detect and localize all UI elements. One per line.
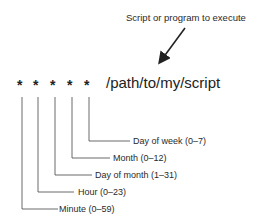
day-of-week-field: * <box>84 78 89 92</box>
script-path: /path/to/my/script <box>106 75 220 91</box>
annotation-label: Script or program to execute <box>126 13 246 23</box>
hour-connector <box>38 97 74 192</box>
day-of-month-field: * <box>50 78 55 92</box>
day-of-week-connector <box>89 97 130 141</box>
day-of-week-label: Day of week (0–7) <box>133 136 206 146</box>
minute-field: * <box>17 78 22 92</box>
month-connector <box>72 97 110 158</box>
month-field: * <box>67 78 72 92</box>
minute-label: Minute (0–59) <box>59 204 115 214</box>
day-of-month-label: Day of month (1–31) <box>95 170 177 180</box>
month-label: Month (0–12) <box>113 153 167 163</box>
day-of-month-connector <box>55 97 92 175</box>
hour-label: Hour (0–23) <box>78 187 126 197</box>
connector-lines <box>0 0 268 224</box>
arrow-icon <box>160 28 185 62</box>
hour-field: * <box>33 78 38 92</box>
